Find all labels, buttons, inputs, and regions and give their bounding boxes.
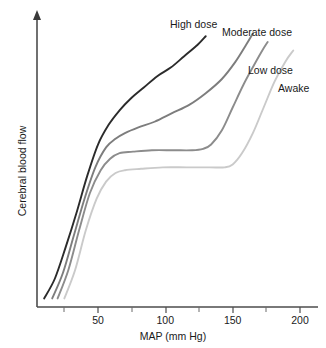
x-tick-label-50: 50 — [81, 314, 115, 326]
series-label-high-dose: High dose — [170, 18, 217, 30]
chart-plot-area — [0, 0, 326, 348]
x-tick-label-100: 100 — [148, 314, 182, 326]
series-label-low-dose: Low dose — [248, 64, 293, 76]
x-tick-label-150: 150 — [216, 314, 250, 326]
series-label-moderate-dose: Moderate dose — [222, 26, 292, 38]
series-label-awake: Awake — [278, 82, 309, 94]
cerebral-autoregulation-chart: Cerebral blood flow MAP (mm Hg) 50100150… — [0, 0, 326, 348]
x-tick-label-200: 200 — [283, 314, 317, 326]
y-axis-title: Cerebral blood flow — [16, 111, 28, 231]
y-axis-arrow-icon — [33, 10, 41, 20]
series-line-moderate-dose — [52, 33, 253, 298]
x-axis-title: MAP (mm Hg) — [108, 330, 238, 342]
axes-group — [33, 10, 318, 307]
